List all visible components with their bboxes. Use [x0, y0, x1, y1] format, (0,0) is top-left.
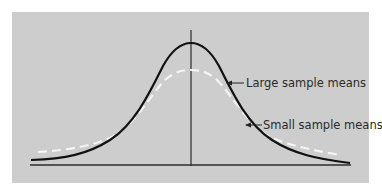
small-sample-means-annotation: Small sample means	[245, 118, 382, 132]
large-sample-means-label: Large sample means	[246, 76, 366, 90]
small-sample-means-label: Small sample means	[263, 118, 382, 132]
distribution-chart: Large sample means Small sample means	[0, 0, 382, 194]
large-sample-means-annotation: Large sample means	[226, 76, 366, 90]
